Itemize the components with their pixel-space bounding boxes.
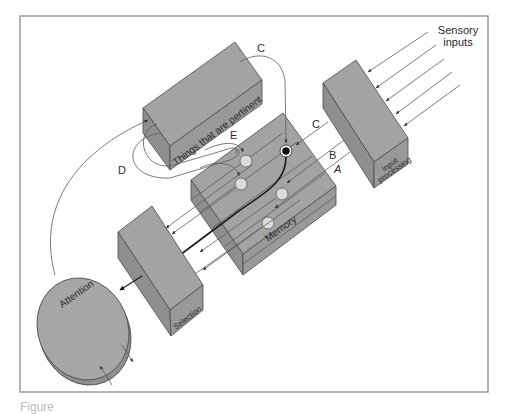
pathway-c-label-mid: C — [312, 118, 320, 130]
active-memory-node-core — [282, 147, 290, 155]
pathway-c-label-top: C — [257, 42, 265, 54]
pathway-b-label: B — [329, 149, 336, 161]
memory-node-b — [276, 188, 288, 200]
sensory-inputs-label-line2: inputs — [443, 36, 473, 48]
pathway-e-label: E — [230, 129, 237, 141]
memory-node-e1 — [240, 155, 252, 167]
figure-caption-partial: Figure — [20, 400, 54, 414]
sensory-inputs-label: Sensory — [438, 24, 479, 36]
pathway-d-label: D — [118, 164, 126, 176]
memory-node-e2 — [235, 178, 247, 190]
pathway-a-label: A — [333, 163, 341, 175]
